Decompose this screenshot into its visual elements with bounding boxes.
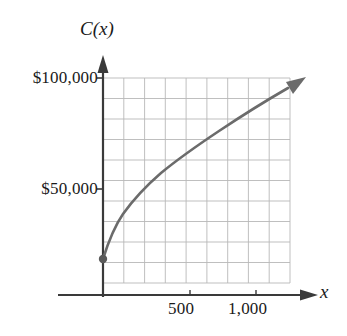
cost-curve <box>103 77 306 259</box>
y-axis-tick-label-100000: $100,000 <box>33 68 98 88</box>
grid-lines <box>103 78 290 283</box>
y-axis-title: C(x) <box>80 18 114 40</box>
x-axis-tick-label-500: 500 <box>168 299 194 319</box>
x-axis-tick-label-1000: 1,000 <box>228 299 267 319</box>
chart-figure: $100,000 $50,000 500 1,000 C(x) x <box>0 0 347 336</box>
curve-start-point <box>99 255 107 263</box>
chart-canvas <box>0 0 347 336</box>
y-axis-tick-label-50000: $50,000 <box>41 179 98 199</box>
x-axis-title: x <box>320 281 328 303</box>
